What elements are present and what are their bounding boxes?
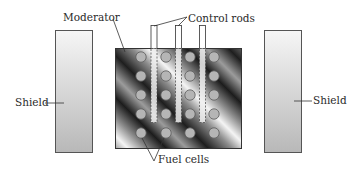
shield-right-label: Shield (313, 94, 347, 106)
shield-right (265, 31, 302, 153)
fuel-cells-label: Fuel cells (158, 153, 209, 165)
shield-left-label: Shield (15, 96, 49, 108)
moderator-leader (113, 19, 125, 52)
control-rods-label: Control rods (188, 12, 255, 24)
reactor-diagram: Shield Shield Moderator Control rods Fue… (0, 0, 363, 176)
shield-left (56, 31, 93, 153)
moderator-label: Moderator (63, 11, 121, 23)
